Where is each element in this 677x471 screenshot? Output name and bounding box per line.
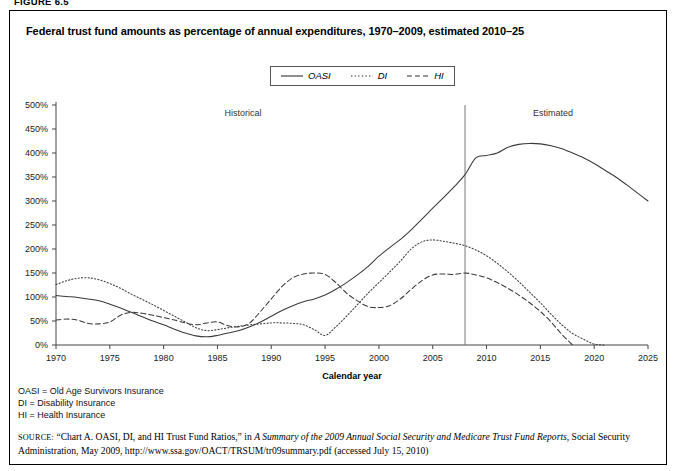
legend-swatch-solid-icon (281, 72, 303, 80)
legend-label-oasi: OASI (308, 70, 331, 81)
source-note: SOURCE: “Chart A. OASI, DI, and HI Trust… (18, 430, 646, 457)
figure-page: FIGURE 6.5 Federal trust fund amounts as… (0, 0, 677, 471)
source-part-1: “Chart A. OASI, DI, and HI Trust Fund Ra… (54, 431, 254, 442)
figure-title: Federal trust fund amounts as percentage… (26, 25, 646, 37)
legend-label-di: DI (378, 70, 388, 81)
note-di: DI = Disability Insurance (18, 397, 164, 409)
legend-swatch-dotted-icon (351, 72, 373, 80)
legend-item-di: DI (351, 70, 388, 81)
abbreviation-notes: OASI = Old Age Survivors Insurance DI = … (18, 385, 164, 422)
source-prefix: SOURCE: (18, 433, 54, 442)
note-hi: HI = Health Insurance (18, 409, 164, 421)
note-oasi: OASI = Old Age Survivors Insurance (18, 385, 164, 397)
legend-item-oasi: OASI (281, 70, 331, 81)
legend-item-hi: HI (407, 70, 444, 81)
figure-number-label: FIGURE 6.5 (14, 0, 69, 7)
chart-legend: OASI DI HI (270, 66, 455, 86)
source-italic-title: A Summary of the 2009 Annual Social Secu… (254, 431, 567, 442)
legend-swatch-dashed-icon (407, 72, 429, 80)
legend-label-hi: HI (434, 70, 444, 81)
